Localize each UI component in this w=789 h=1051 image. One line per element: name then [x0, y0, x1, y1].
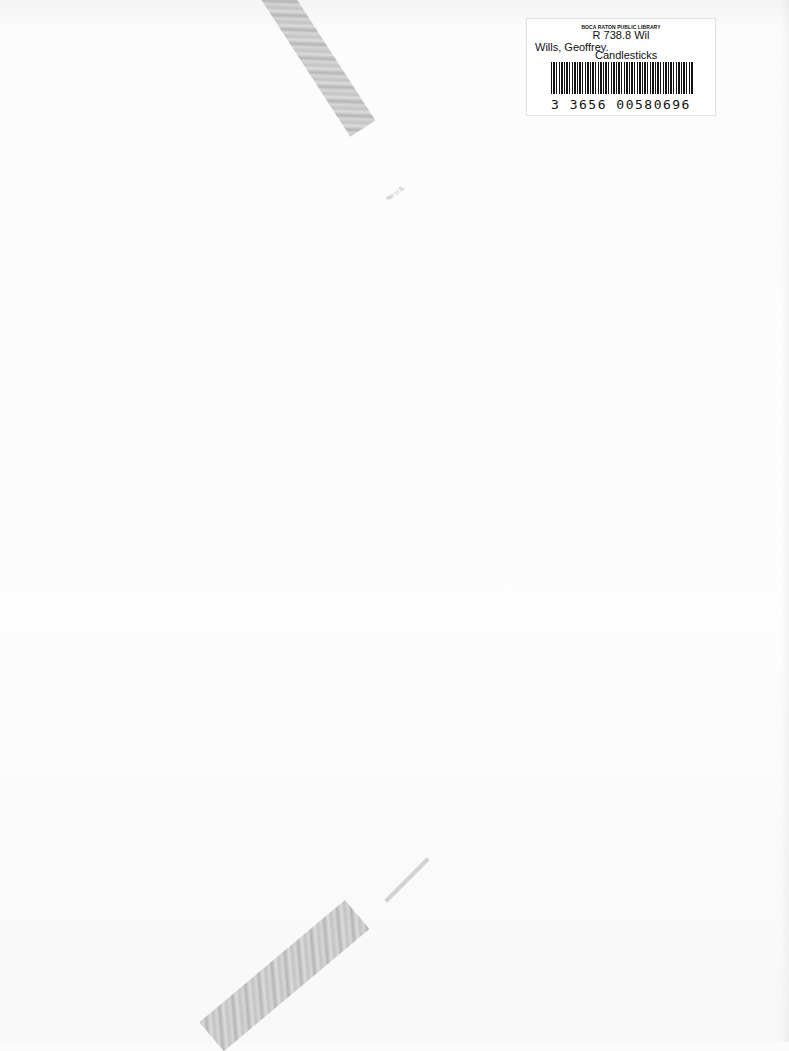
tape-fragment — [384, 857, 429, 902]
tape-strip-bottom — [199, 900, 369, 1051]
page-edge-shadow — [779, 0, 789, 1042]
pencil-mark: Ne U.S. — [385, 185, 406, 202]
barcode-number: 3 3656 00580696 — [527, 97, 715, 112]
call-number: R 738.8 Wil — [527, 29, 715, 41]
library-label: BOCA RATON PUBLIC LIBRARY R 738.8 Wil Wi… — [526, 18, 716, 116]
book-title: Candlesticks — [595, 49, 657, 61]
tape-strip-top — [255, 0, 375, 137]
barcode — [551, 62, 693, 94]
faint-bleed-through — [180, 505, 280, 535]
